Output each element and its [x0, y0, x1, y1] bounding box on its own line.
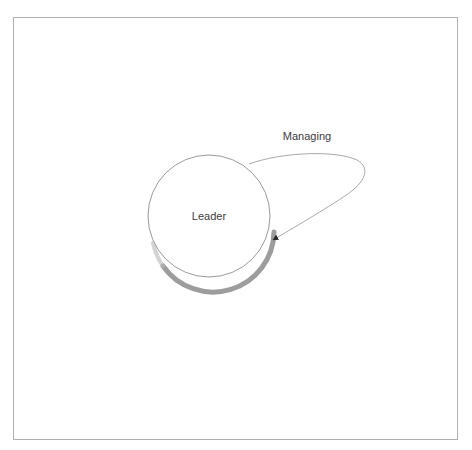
managing-edge-label: Managing	[283, 130, 331, 142]
diagram-page: { "diagram": { "type": "state-diagram", …	[0, 0, 472, 450]
leader-node-label: Leader	[192, 210, 227, 222]
diagram-canvas: Leader Managing	[0, 0, 472, 450]
